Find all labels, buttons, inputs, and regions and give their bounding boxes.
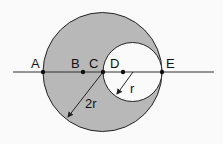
label-r: r	[130, 81, 135, 96]
label-b: B	[71, 56, 80, 71]
label-a: A	[31, 56, 40, 71]
label-d: D	[110, 56, 119, 71]
point-d-dot	[121, 70, 125, 74]
label-2r: 2r	[85, 96, 97, 111]
point-e-dot	[160, 70, 164, 74]
point-c-dot	[101, 70, 105, 74]
label-e: E	[166, 56, 175, 71]
geometry-diagram: A B C D E 2r r	[0, 0, 223, 144]
point-b-dot	[81, 70, 85, 74]
label-c: C	[89, 56, 98, 71]
point-a-dot	[41, 70, 45, 74]
